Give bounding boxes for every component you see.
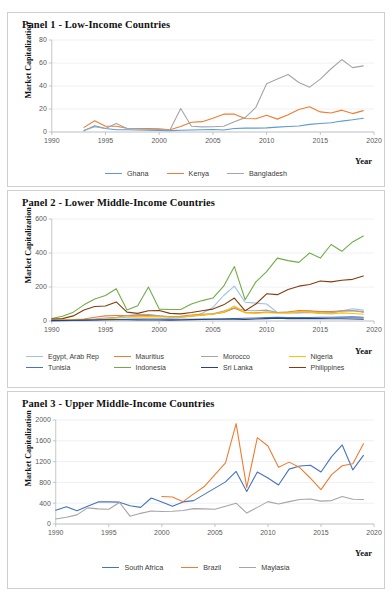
legend-item-label: Kenya <box>189 170 209 177</box>
legend-swatch-line-icon <box>114 356 131 357</box>
svg-text:400: 400 <box>35 249 47 256</box>
svg-text:800: 800 <box>39 479 51 486</box>
legend-item-label: Sri Lanka <box>223 364 253 371</box>
legend-swatch-line-icon <box>201 367 218 368</box>
svg-text:20: 20 <box>39 105 47 112</box>
legend-item[interactable]: Nigeria <box>289 353 377 360</box>
panel-3-svg: 0400800120016002000199019952000200520102… <box>8 414 384 546</box>
legend-item[interactable]: Morocco <box>201 353 289 360</box>
legend-swatch-line-icon <box>105 173 122 174</box>
svg-text:2010: 2010 <box>259 137 275 144</box>
svg-text:40: 40 <box>39 82 47 89</box>
panel-1-svg: 0204060801990199520002005201020152020 <box>8 34 384 154</box>
svg-text:2015: 2015 <box>313 326 329 333</box>
svg-text:2015: 2015 <box>313 137 329 144</box>
svg-text:2020: 2020 <box>366 326 382 333</box>
svg-text:200: 200 <box>35 283 47 290</box>
svg-text:2020: 2020 <box>366 137 382 144</box>
legend-swatch-line-icon <box>239 567 256 568</box>
legend-swatch-line-icon <box>26 356 43 357</box>
svg-text:1995: 1995 <box>98 326 114 333</box>
legend-item-label: Mauritius <box>136 353 164 360</box>
legend-item[interactable]: Brazil <box>181 564 221 571</box>
legend-swatch-line-icon <box>167 173 184 174</box>
svg-text:1995: 1995 <box>98 137 114 144</box>
legend-swatch-line-icon <box>114 367 131 368</box>
svg-text:1990: 1990 <box>44 137 60 144</box>
legend-item[interactable]: Sri Lanka <box>201 364 289 371</box>
legend-item[interactable]: Philippines <box>289 364 377 371</box>
panel-2-title: Panel 2 - Lower Middle-Income Countries <box>22 197 215 208</box>
legend-swatch-line-icon <box>181 567 198 568</box>
svg-text:400: 400 <box>39 500 51 507</box>
svg-text:1990: 1990 <box>48 529 64 536</box>
legend-item[interactable]: Ghana <box>105 170 149 177</box>
svg-text:1995: 1995 <box>101 529 117 536</box>
panel-2-legend: Egypt, Arab RepMauritiusMoroccoNigeriaTu… <box>26 351 376 373</box>
legend-swatch-line-icon <box>201 356 218 357</box>
panel-3-legend: South AfricaBrazilMaylasia <box>8 564 384 571</box>
svg-text:2010: 2010 <box>260 529 276 536</box>
panel-2-svg: 02004006001990199520002005201020152020 <box>8 213 384 343</box>
svg-text:1990: 1990 <box>44 326 60 333</box>
svg-text:0: 0 <box>47 520 51 527</box>
legend-item-label: Maylasia <box>261 564 289 571</box>
panel-1: Panel 1 - Low-Income Countries Market Ca… <box>7 12 385 187</box>
legend-item-label: Morocco <box>223 353 250 360</box>
legend-item-label: Philippines <box>311 364 345 371</box>
figure-page: Panel 1 - Low-Income Countries Market Ca… <box>0 0 392 599</box>
svg-text:2005: 2005 <box>207 529 223 536</box>
panel-1-legend: GhanaKenyaBangladesh <box>8 170 384 177</box>
svg-text:0: 0 <box>43 128 47 135</box>
svg-text:80: 80 <box>39 36 47 43</box>
panel-1-x-axis-label: Year <box>355 156 372 166</box>
legend-item-label: Tunisia <box>48 364 70 371</box>
svg-text:2000: 2000 <box>151 137 167 144</box>
panel-3-title: Panel 3 - Upper Middle-Income Countries <box>22 398 214 409</box>
svg-text:2000: 2000 <box>154 529 170 536</box>
svg-text:1600: 1600 <box>35 437 51 444</box>
svg-text:2000: 2000 <box>151 326 167 333</box>
legend-item-label: Nigeria <box>311 353 333 360</box>
legend-item-label: Brazil <box>203 564 221 571</box>
svg-text:1200: 1200 <box>35 458 51 465</box>
legend-swatch-line-icon <box>26 367 43 368</box>
svg-text:60: 60 <box>39 59 47 66</box>
legend-item[interactable]: Egypt, Arab Rep <box>26 353 114 360</box>
panel-3-plot: Market Capitalization 040080012001600200… <box>8 414 384 546</box>
legend-swatch-line-icon <box>102 567 119 568</box>
svg-text:600: 600 <box>35 215 47 222</box>
svg-text:2000: 2000 <box>35 416 51 423</box>
legend-swatch-line-icon <box>227 173 244 174</box>
legend-item[interactable]: Tunisia <box>26 364 114 371</box>
legend-item[interactable]: Mauritius <box>114 353 202 360</box>
panel-1-plot: Market Capitalization 020406080199019952… <box>8 34 384 154</box>
svg-text:2020: 2020 <box>366 529 382 536</box>
panel-1-title: Panel 1 - Low-Income Countries <box>22 19 170 30</box>
svg-text:2010: 2010 <box>259 326 275 333</box>
legend-item-label: Bangladesh <box>249 170 287 177</box>
legend-item[interactable]: Maylasia <box>239 564 289 571</box>
panel-2-plot: Market Capitalization 020040060019901995… <box>8 213 384 343</box>
panel-2: Panel 2 - Lower Middle-Income Countries … <box>7 190 385 388</box>
legend-swatch-line-icon <box>289 367 306 368</box>
legend-item[interactable]: Indonesia <box>114 364 202 371</box>
legend-item-label: Indonesia <box>136 364 166 371</box>
legend-item-label: Ghana <box>127 170 149 177</box>
legend-item-label: Egypt, Arab Rep <box>48 353 99 360</box>
panel-3: Panel 3 - Upper Middle-Income Countries … <box>7 391 385 589</box>
svg-text:2015: 2015 <box>313 529 329 536</box>
svg-text:2005: 2005 <box>205 326 221 333</box>
legend-item[interactable]: Kenya <box>167 170 209 177</box>
legend-item[interactable]: South Africa <box>102 564 163 571</box>
legend-swatch-line-icon <box>289 356 306 357</box>
svg-text:0: 0 <box>43 317 47 324</box>
panel-3-x-axis-label: Year <box>355 548 372 558</box>
legend-item-label: South Africa <box>124 564 163 571</box>
legend-item[interactable]: Bangladesh <box>227 170 287 177</box>
svg-text:2005: 2005 <box>205 137 221 144</box>
